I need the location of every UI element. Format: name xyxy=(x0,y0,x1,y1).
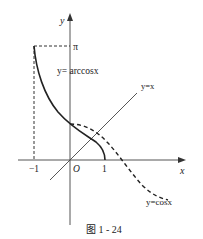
x-axis-label: x xyxy=(179,165,185,176)
y-axis-arrow-icon xyxy=(67,13,73,21)
one-tick-label: 1 xyxy=(102,164,107,174)
function-graph: y x π y= arccosx y=x y=cosx −1 1 O 图 1 -… xyxy=(0,0,203,239)
cos-label: y=cosx xyxy=(146,197,173,207)
identity-line xyxy=(50,93,137,180)
neg-one-tick-label: −1 xyxy=(29,164,39,174)
origin-label: O xyxy=(73,164,80,174)
arccos-label: y= arccosx xyxy=(57,66,99,76)
pi-tick-label: π xyxy=(73,41,78,52)
identity-label: y=x xyxy=(141,81,155,91)
y-axis-label: y xyxy=(59,15,65,26)
x-axis-arrow-icon xyxy=(178,157,186,163)
figure-caption: 图 1 - 24 xyxy=(86,224,122,235)
